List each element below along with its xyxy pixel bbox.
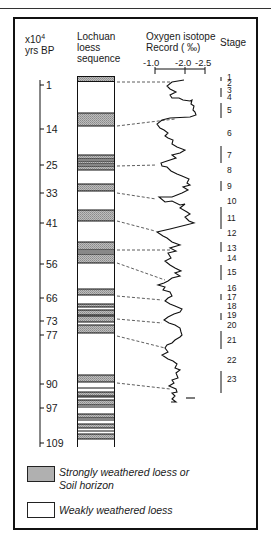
stage-5: 5 bbox=[227, 106, 232, 115]
stage-10: 10 bbox=[227, 197, 236, 206]
legend-label-weak: Weakly weathered loess bbox=[59, 504, 173, 517]
age-tick-1: 1 bbox=[46, 80, 52, 91]
oxygen-isotope-curve bbox=[157, 80, 196, 402]
stage-14: 14 bbox=[227, 254, 236, 263]
stage-4: 4 bbox=[227, 93, 232, 102]
stage-12: 12 bbox=[227, 229, 236, 238]
age-tick-56: 56 bbox=[46, 259, 58, 270]
age-tick-33: 33 bbox=[46, 188, 58, 199]
legend-strong-line2: Soil horizon bbox=[59, 479, 114, 491]
age-tick-25: 25 bbox=[46, 160, 58, 171]
age-tick-41: 41 bbox=[46, 218, 58, 229]
stage-19: 19 bbox=[227, 311, 236, 320]
stage-8: 8 bbox=[227, 166, 232, 175]
stage-20: 20 bbox=[227, 321, 236, 330]
stage-9: 9 bbox=[227, 182, 232, 191]
age-tick-109: 109 bbox=[46, 438, 64, 449]
isotope-axis bbox=[155, 67, 205, 74]
age-axis-ticks bbox=[40, 85, 44, 443]
age-tick-73: 73 bbox=[46, 316, 58, 327]
legend-label-strong: Strongly weathered loess or Soil horizon bbox=[59, 466, 189, 492]
legend-swatch-strong bbox=[27, 466, 55, 482]
stage-15: 15 bbox=[227, 268, 236, 277]
legend-swatch-weak bbox=[27, 502, 55, 518]
stage-13: 13 bbox=[227, 244, 236, 253]
stage-21: 21 bbox=[227, 336, 236, 345]
stage-7: 7 bbox=[227, 151, 232, 160]
legend-strong-line1: Strongly weathered loess or bbox=[59, 466, 189, 478]
age-tick-14: 14 bbox=[46, 124, 58, 135]
age-tick-77: 77 bbox=[46, 330, 58, 341]
stage-22: 22 bbox=[227, 356, 236, 365]
correlation-lines bbox=[117, 82, 175, 389]
age-tick-66: 66 bbox=[46, 293, 58, 304]
age-tick-90: 90 bbox=[46, 379, 58, 390]
stage-6: 6 bbox=[227, 129, 232, 138]
loess-column bbox=[77, 75, 115, 447]
stage-11: 11 bbox=[227, 214, 236, 223]
age-tick-97: 97 bbox=[46, 403, 58, 414]
stage-23: 23 bbox=[227, 375, 236, 384]
